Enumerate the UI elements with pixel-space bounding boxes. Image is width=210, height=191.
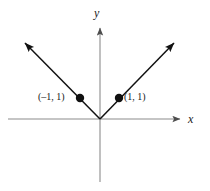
data-point-marker-left (76, 94, 84, 102)
curve-left-arm (25, 43, 100, 119)
data-point-label-left: (–1, 1) (38, 92, 65, 102)
data-point-label-right: (1, 1) (124, 92, 146, 102)
data-point-marker-right (115, 94, 123, 102)
curve-right-arm (100, 43, 174, 119)
plot-canvas (0, 0, 210, 191)
x-axis-label: x (188, 113, 193, 125)
absolute-value-graph-figure: y x (–1, 1) (1, 1) (0, 0, 210, 191)
y-axis-label: y (94, 7, 99, 19)
